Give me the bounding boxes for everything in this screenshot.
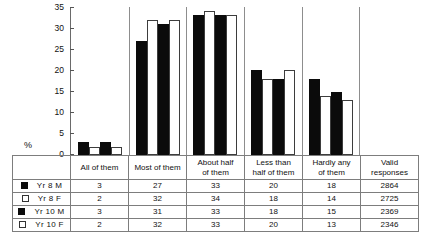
column-header-line2: half of them [253,168,295,177]
bar-chart: 35 30 25 20 15 10 5 0 % [0,0,424,156]
cell-value: 33 [187,206,245,219]
bar-yr-8-m-2 [193,15,204,155]
bar-yr-8-m-4 [309,79,320,155]
y-tick-30: 30 [42,24,64,33]
bar-yr-10-m-4 [331,92,342,155]
bar-group-hardly-any-of-them [309,7,353,155]
y-tick-35: 35 [42,3,64,12]
group-separator [244,7,245,155]
column-header-valid-responses: Valid responses [361,156,419,180]
cell-value: 27 [129,180,187,193]
group-separator [302,7,303,155]
bar-yr-10-f-1 [169,20,180,155]
group-separator [359,7,360,155]
bar-group-all-of-them [78,7,122,155]
bar-yr-10-f-2 [226,15,237,155]
bar-yr-8-f-2 [204,11,215,155]
column-header-line2: responses [371,168,408,177]
group-separator [129,7,130,155]
bar-yr-8-f-3 [262,79,273,155]
cell-valid-responses: 2346 [361,219,419,232]
series-label: Yr 10 F [35,220,63,229]
cell-value: 31 [129,206,187,219]
series-label: Yr 10 M [34,207,64,216]
column-header-line1: Hardly any [312,158,350,167]
cell-value: 2 [71,219,129,232]
data-table: All of them Most of them About half of t… [12,155,419,232]
cell-value: 33 [187,219,245,232]
table-row: Yr 8 M3273320182864 [13,180,419,193]
chart-page: 35 30 25 20 15 10 5 0 % [0,0,424,241]
cell-value: 3 [71,206,129,219]
cell-value: 18 [303,180,361,193]
cell-value: 13 [303,219,361,232]
bar-yr-8-f-1 [147,20,158,155]
cell-value: 32 [129,219,187,232]
column-header-most-of-them: Most of them [129,156,187,180]
cell-value: 33 [187,180,245,193]
cell-value: 34 [187,193,245,206]
bar-group-about-half-of-them [193,7,237,155]
group-separator [186,7,187,155]
cell-valid-responses: 2725 [361,193,419,206]
y-tick-10: 10 [42,108,64,117]
bar-yr-8-f-4 [320,96,331,155]
series-label: Yr 8 F [38,194,62,203]
bar-yr-8-m-0 [78,142,89,155]
bar-group-most-of-them [136,7,180,155]
column-header-less-than-half: Less than half of them [245,156,303,180]
column-header-line1: Most of them [134,163,180,172]
legend-corner-cell [13,156,71,180]
cell-value: 20 [245,219,303,232]
bar-yr-10-m-3 [273,79,284,155]
column-header-line2: of them [202,168,229,177]
cell-value: 3 [71,180,129,193]
plot-region [71,7,417,155]
cell-valid-responses: 2369 [361,206,419,219]
filled-square-icon [21,182,28,189]
legend-cell-yr-8-m: Yr 8 M [13,180,71,193]
legend-cell-yr-10-m: Yr 10 M [13,206,71,219]
column-header-all-of-them: All of them [71,156,129,180]
table-row: Yr 8 F2323418142725 [13,193,419,206]
empty-square-icon [22,195,29,202]
column-header-about-half: About half of them [187,156,245,180]
bar-yr-10-m-1 [158,24,169,155]
bar-yr-10-f-0 [111,147,122,155]
y-tick-15: 15 [42,87,64,96]
cell-value: 32 [129,193,187,206]
bar-yr-10-m-0 [100,142,111,155]
column-header-line1: All of them [81,163,119,172]
cell-valid-responses: 2864 [361,180,419,193]
bar-yr-8-m-3 [251,70,262,155]
empty-square-icon [19,221,26,228]
table-header: All of them Most of them About half of t… [13,156,419,180]
bar-yr-10-f-4 [342,100,353,155]
filled-square-icon [18,208,25,215]
series-label: Yr 8 M [37,181,62,190]
column-header-hardly-any: Hardly any of them [303,156,361,180]
cell-value: 15 [303,206,361,219]
legend-cell-yr-8-f: Yr 8 F [13,193,71,206]
cell-value: 20 [245,180,303,193]
table-body: Yr 8 M3273320182864Yr 8 F2323418142725Yr… [13,180,419,232]
bar-yr-10-m-2 [215,15,226,155]
bar-yr-8-m-1 [136,41,147,155]
y-axis-label-percent: % [24,141,32,150]
column-header-line2: of them [318,168,345,177]
legend-cell-yr-10-f: Yr 10 F [13,219,71,232]
cell-value: 18 [245,193,303,206]
cell-value: 18 [245,206,303,219]
bar-group-less-than-half-of-them [251,7,295,155]
table-row: Yr 10 M3313318152369 [13,206,419,219]
cell-value: 2 [71,193,129,206]
cell-value: 14 [303,193,361,206]
bar-yr-10-f-3 [284,70,295,155]
column-header-line1: About half [197,158,233,167]
bar-yr-8-f-0 [89,147,100,155]
y-tick-25: 25 [42,45,64,54]
table-header-row: All of them Most of them About half of t… [13,156,419,180]
column-header-line1: Valid [381,158,398,167]
y-tick-5: 5 [42,129,64,138]
column-header-line1: Less than [256,158,291,167]
